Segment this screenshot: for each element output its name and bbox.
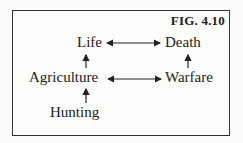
diagram-arrows [0, 0, 243, 143]
